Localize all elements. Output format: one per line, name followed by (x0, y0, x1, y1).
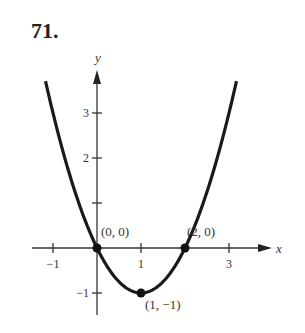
point-marker (181, 244, 190, 253)
point-label: (0, 0) (101, 224, 129, 239)
point-label: (1, −1) (145, 297, 181, 312)
x-axis-label: x (275, 241, 282, 256)
x-axis-arrow-icon (258, 244, 272, 252)
y-axis-label: y (93, 50, 101, 65)
parabola-plot: xy−113−123(0, 0)(2, 0)(1, −1) (0, 0, 305, 333)
x-tick-label: 1 (138, 257, 144, 271)
y-axis-arrow-icon (93, 70, 101, 84)
x-tick-label: 3 (226, 257, 232, 271)
point-label: (2, 0) (187, 224, 215, 239)
point-marker (93, 244, 102, 253)
y-tick-label: 3 (83, 106, 89, 120)
x-tick-label: −1 (47, 257, 60, 271)
y-tick-label: 2 (83, 151, 89, 165)
y-tick-label: −1 (76, 286, 89, 300)
